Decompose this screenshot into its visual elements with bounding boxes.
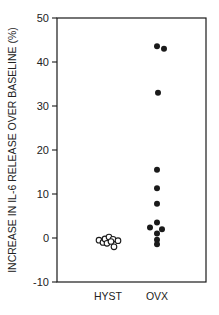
ovx-data-point (155, 90, 161, 96)
ovx-data-point (159, 226, 165, 232)
x-axis-categories: HYSTOVX (94, 290, 168, 302)
hyst-data-point (115, 238, 121, 244)
hyst-data-point (108, 239, 114, 245)
y-axis-title: INCREASE IN IL-6 RELEASE OVER BASELINE (… (6, 27, 18, 273)
ovx-data-point (154, 241, 160, 247)
ovx-data-point (147, 224, 153, 230)
y-tick-label: 30 (37, 100, 49, 112)
ovx-data-point (154, 185, 160, 191)
y-tick-label: 0 (43, 232, 49, 244)
ovx-data-point (154, 167, 160, 173)
y-axis: -1001020304050 (33, 12, 57, 288)
ovx-data-point (154, 201, 160, 207)
ovx-data-point (154, 220, 160, 226)
hyst-data-point (111, 244, 117, 250)
scatter-chart: -1001020304050 HYSTOVX INCREASE IN IL-6 … (0, 0, 219, 315)
x-category-label-ovx: OVX (146, 290, 168, 302)
data-points (96, 43, 167, 249)
ovx-data-point (161, 46, 167, 52)
plot-frame (57, 18, 206, 282)
y-tick-label: 40 (37, 56, 49, 68)
y-tick-label: 10 (37, 188, 49, 200)
y-tick-label: 50 (37, 12, 49, 24)
y-tick-label: -10 (33, 276, 49, 288)
x-category-label-hyst: HYST (94, 290, 123, 302)
ovx-data-point (154, 231, 160, 237)
ovx-data-point (154, 43, 160, 49)
plot-border (57, 18, 206, 282)
y-tick-label: 20 (37, 144, 49, 156)
